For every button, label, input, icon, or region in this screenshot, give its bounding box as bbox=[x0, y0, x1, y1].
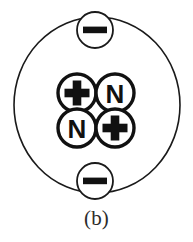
nucleon-neutron-top-right: N bbox=[96, 74, 134, 112]
nucleon-proton-bottom-right bbox=[96, 109, 134, 147]
atom-diagram: N N (b) bbox=[0, 0, 193, 242]
minus-icon-bar bbox=[83, 178, 107, 185]
plus-icon-vertical-bar bbox=[111, 116, 120, 141]
nucleus-group: N N bbox=[58, 74, 134, 147]
nucleon-neutron-bottom-left: N bbox=[58, 109, 96, 147]
electron-top bbox=[77, 12, 113, 48]
neutron-letter-n: N bbox=[68, 114, 87, 144]
figure-caption: (b) bbox=[0, 206, 193, 231]
minus-icon-bar bbox=[83, 27, 107, 34]
nucleon-proton-top-left bbox=[58, 74, 96, 112]
plus-icon-vertical-bar bbox=[73, 81, 82, 106]
neutron-letter-n: N bbox=[106, 79, 125, 109]
electron-bottom bbox=[77, 163, 113, 199]
